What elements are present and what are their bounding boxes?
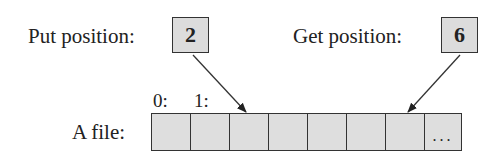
pointer-arrows xyxy=(0,0,501,159)
get-arrow xyxy=(408,55,460,112)
put-arrow xyxy=(193,55,246,112)
